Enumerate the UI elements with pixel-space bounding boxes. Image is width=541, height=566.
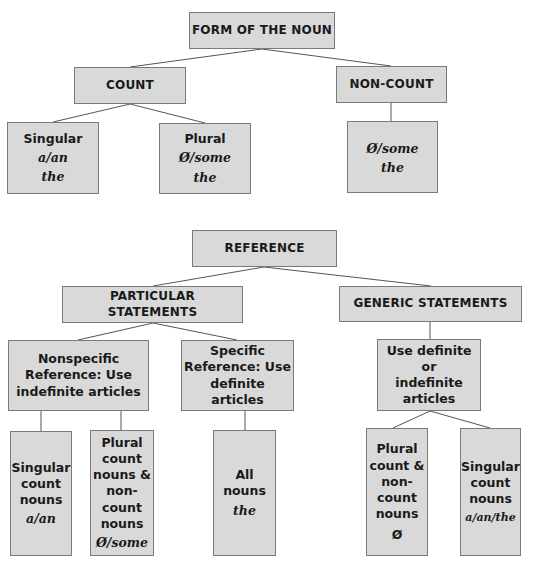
specific-line-2: Reference: Use (184, 359, 291, 375)
nonspecific-line-3: indefinite articles (16, 384, 140, 400)
nonspecific-line-1: Nonspecific (38, 351, 119, 367)
particular-statements-box: PARTICULAR STATEMENTS (62, 286, 243, 323)
specific-line-3: definite articles (182, 376, 293, 409)
generic-plural-noncount-box: Plural count & non- count nouns Ø (366, 428, 428, 556)
noncount-box: NON-COUNT (336, 66, 447, 103)
g-singular-line-2: count (471, 475, 511, 491)
count-box: COUNT (74, 67, 186, 104)
g-plural-article: Ø (392, 527, 403, 543)
g-plural-line-2: count & (369, 458, 424, 474)
generic-statements-box: GENERIC STATEMENTS (339, 286, 522, 322)
g-singular-line-3: nouns (469, 491, 512, 507)
singular-title: Singular (24, 131, 83, 147)
form-of-noun-box: FORM OF THE NOUN (189, 12, 335, 49)
ns-singular-line-1: Singular (12, 460, 71, 476)
plural-title: Plural (184, 131, 225, 147)
singular-article-1: a/an (38, 150, 68, 166)
form-of-noun-label: FORM OF THE NOUN (192, 23, 332, 39)
singular-article-2: the (42, 169, 65, 185)
ns-plural-line-3: nouns & (93, 467, 151, 483)
specific-reference-box: Specific Reference: Use definite article… (181, 340, 294, 411)
reference-box: REFERENCE (192, 230, 337, 267)
ns-plural-line-5: nouns (101, 516, 144, 532)
reference-label: REFERENCE (224, 241, 304, 257)
all-nouns-article: the (233, 503, 256, 519)
ns-plural-article: Ø/some (96, 535, 148, 551)
plural-article-2: the (194, 170, 217, 186)
plural-article-1: Ø/some (179, 150, 231, 166)
noncount-article-2: the (381, 160, 404, 176)
specific-line-1: Specific (210, 343, 265, 359)
all-nouns-line-1: All nouns (214, 467, 275, 500)
specific-all-nouns-box: All nouns the (213, 430, 276, 556)
generic-use-line-1: Use definite or (378, 343, 480, 376)
noncount-article-1: Ø/some (366, 141, 418, 157)
g-plural-line-4: count (377, 490, 417, 506)
ns-singular-line-3: nouns (20, 492, 63, 508)
use-definite-or-indefinite-box: Use definite or indefinite articles (377, 339, 481, 411)
generic-statements-label: GENERIC STATEMENTS (353, 296, 507, 312)
particular-statements-label: PARTICULAR STATEMENTS (63, 289, 242, 320)
singular-box: Singular a/an the (7, 122, 99, 194)
nonspecific-plural-noncount-box: Plural count nouns & non-count nouns Ø/s… (90, 430, 154, 556)
nonspecific-reference-box: Nonspecific Reference: Use indefinite ar… (8, 340, 149, 411)
nonspecific-singular-count-box: Singular count nouns a/an (10, 431, 72, 556)
generic-singular-count-box: Singular count nouns a/an/the (460, 428, 521, 556)
ns-plural-line-4: non-count (91, 483, 153, 516)
g-plural-line-1: Plural (376, 441, 417, 457)
noncount-label: NON-COUNT (349, 77, 433, 93)
generic-use-line-2: indefinite (395, 375, 463, 391)
g-plural-line-5: nouns (376, 506, 419, 522)
ns-singular-article: a/an (26, 511, 56, 527)
nonspecific-line-2: Reference: Use (25, 367, 132, 383)
g-singular-line-1: Singular (461, 459, 520, 475)
g-singular-article: a/an/the (465, 511, 515, 525)
ns-plural-line-2: count (102, 451, 142, 467)
ns-singular-line-2: count (21, 476, 61, 492)
ns-plural-line-1: Plural (101, 435, 142, 451)
noncount-articles-box: Ø/some the (347, 121, 438, 193)
count-label: COUNT (106, 78, 154, 94)
g-plural-line-3: non- (381, 474, 413, 490)
plural-box: Plural Ø/some the (159, 123, 251, 194)
generic-use-line-3: articles (403, 391, 455, 407)
